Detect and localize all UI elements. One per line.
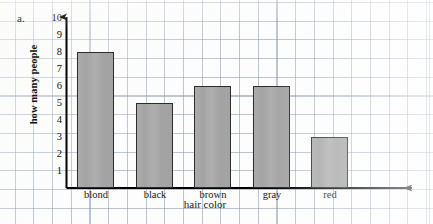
bar-sheen	[195, 87, 230, 187]
y-tick-label-9: 9	[44, 30, 62, 40]
x-tick-label-gray: gray	[246, 189, 298, 200]
y-tick-label-1: 1	[44, 166, 62, 176]
y-axis-label: how many people	[28, 25, 39, 145]
bar-sheen	[137, 104, 172, 187]
y-tick-label-6: 6	[44, 81, 62, 91]
bar-black[interactable]	[136, 103, 173, 188]
y-tick-label-8: 8	[44, 47, 62, 57]
y-tick-label-4: 4	[44, 115, 62, 125]
x-tick-label-blond: blond	[70, 189, 122, 200]
bar-blond[interactable]	[77, 52, 114, 188]
bar-gray[interactable]	[253, 86, 290, 188]
bar-sheen	[78, 53, 113, 187]
bar-red[interactable]	[311, 137, 348, 188]
bar-brown[interactable]	[194, 86, 231, 188]
bar-sheen	[254, 87, 289, 187]
y-tick-label-2: 2	[44, 149, 62, 159]
x-axis-label: hair color	[160, 198, 250, 210]
y-tick-label-5: 5	[44, 98, 62, 108]
y-tick-label-10: 10	[40, 13, 62, 23]
y-tick-label-3: 3	[44, 132, 62, 142]
x-tick-label-red: red	[304, 189, 356, 200]
y-tick-label-7: 7	[44, 64, 62, 74]
bar-chart: a. how many people 1 2 3 4 5 6 7 8	[0, 0, 433, 224]
bar-sheen	[312, 138, 347, 187]
graph-paper-worksheet: a. how many people 1 2 3 4 5 6 7 8	[0, 0, 433, 224]
